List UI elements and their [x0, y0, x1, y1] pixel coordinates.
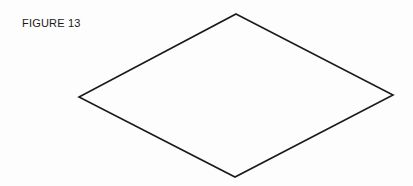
- diagram-canvas: [0, 0, 413, 186]
- rhombus-shape: [79, 14, 393, 177]
